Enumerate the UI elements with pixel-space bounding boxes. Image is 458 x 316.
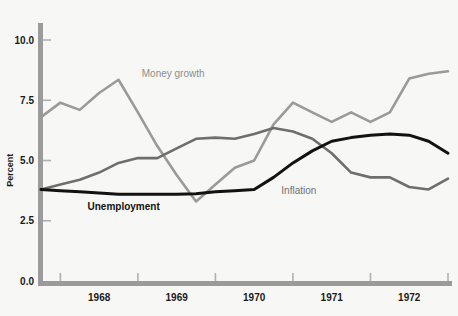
y-axis-line — [38, 23, 43, 285]
x-tick-label: 1968 — [88, 292, 111, 303]
y-tick-label: 7.5 — [20, 95, 34, 106]
series-label-unemployment: Unemployment — [88, 201, 161, 212]
series-label-inflation: Inflation — [281, 185, 316, 196]
x-axis-line — [38, 281, 452, 286]
x-tick-label: 1972 — [398, 292, 421, 303]
x-tick-label: 1969 — [166, 292, 189, 303]
y-tick-label: 10.0 — [15, 35, 35, 46]
y-tick-label: 5.0 — [20, 155, 34, 166]
y-tick-label: 0.0 — [20, 276, 34, 287]
series-label-money-growth: Money growth — [142, 68, 205, 79]
chart-container: 0.02.55.07.510.0Percent19681969197019711… — [0, 0, 458, 316]
chart-background — [0, 0, 458, 316]
y-tick-label: 2.5 — [20, 215, 34, 226]
x-tick-label: 1971 — [321, 292, 344, 303]
line-chart: 0.02.55.07.510.0Percent19681969197019711… — [0, 0, 458, 316]
x-tick-label: 1970 — [243, 292, 266, 303]
y-axis-title: Percent — [5, 154, 15, 187]
